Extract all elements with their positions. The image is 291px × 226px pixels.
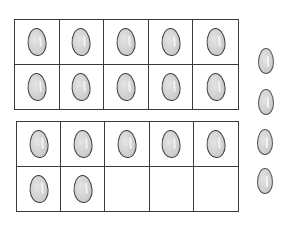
frame-cell bbox=[150, 122, 194, 167]
counter-icon bbox=[205, 72, 226, 101]
counter-icon bbox=[71, 72, 92, 101]
frame-cell bbox=[105, 122, 149, 167]
top-ten-frame bbox=[14, 19, 239, 110]
frame-cell bbox=[149, 20, 194, 65]
frame-cell bbox=[60, 65, 105, 110]
frame-cell bbox=[149, 65, 194, 110]
counter-icon bbox=[72, 129, 93, 158]
frame-cell bbox=[61, 122, 105, 167]
loose-counter bbox=[258, 89, 274, 115]
counter-icon bbox=[117, 129, 138, 158]
counter-icon bbox=[258, 89, 274, 115]
frame-cell bbox=[17, 167, 61, 212]
counter-icon bbox=[71, 27, 92, 56]
frame-cell bbox=[104, 65, 149, 110]
counter-icon bbox=[26, 27, 47, 56]
counter-icon bbox=[116, 72, 137, 101]
frame-cell bbox=[104, 20, 149, 65]
counter-icon bbox=[160, 27, 181, 56]
bottom-ten-frame bbox=[16, 121, 239, 212]
loose-counter bbox=[257, 129, 273, 155]
counter-icon bbox=[160, 72, 181, 101]
counter-icon bbox=[257, 129, 273, 155]
counter-icon bbox=[28, 174, 49, 203]
frame-cell bbox=[60, 20, 105, 65]
frame-cell bbox=[61, 167, 105, 212]
loose-counter bbox=[258, 48, 274, 74]
frame-cell bbox=[15, 20, 60, 65]
frame-cell bbox=[15, 65, 60, 110]
counter-icon bbox=[257, 168, 273, 194]
frame-cell bbox=[193, 65, 238, 110]
frame-cell bbox=[17, 122, 61, 167]
counter-icon bbox=[205, 129, 226, 158]
counter-icon bbox=[116, 27, 137, 56]
frame-cell-empty bbox=[150, 167, 194, 212]
frame-cell bbox=[194, 122, 238, 167]
counter-icon bbox=[28, 129, 49, 158]
frame-cell-empty bbox=[194, 167, 238, 212]
counter-icon bbox=[72, 174, 93, 203]
counter-icon bbox=[258, 48, 274, 74]
frame-cell-empty bbox=[105, 167, 149, 212]
counter-icon bbox=[26, 72, 47, 101]
frame-cell bbox=[193, 20, 238, 65]
counter-icon bbox=[161, 129, 182, 158]
counter-icon bbox=[205, 27, 226, 56]
loose-counter bbox=[257, 168, 273, 194]
